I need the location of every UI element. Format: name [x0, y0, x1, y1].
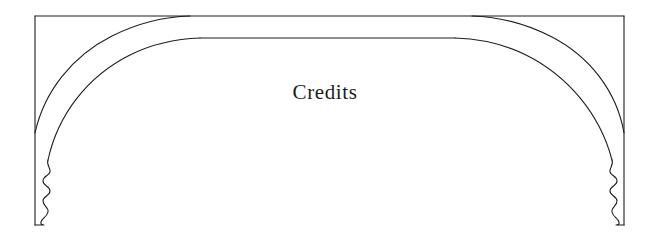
inner-arch-right-haunch [455, 38, 612, 160]
inner-arch-left-haunch [48, 38, 200, 160]
ornament-linework [35, 16, 624, 225]
tudor-arch-ornament [0, 0, 650, 240]
page-canvas: Credits [0, 0, 650, 240]
outer-arch-left-haunch [35, 16, 190, 133]
outer-arch-right-haunch [472, 16, 624, 133]
right-ogee-finial [610, 160, 624, 225]
left-ogee-finial [35, 160, 50, 225]
